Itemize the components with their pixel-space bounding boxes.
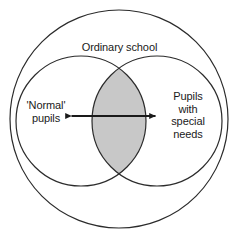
left-set-label-line-2: pupils xyxy=(11,112,81,125)
left-set-label: 'Normal' pupils xyxy=(11,99,81,124)
left-set-label-line-1: 'Normal' xyxy=(11,99,81,112)
outer-set-label: Ordinary school xyxy=(0,41,239,54)
right-set-label-line-1: Pupils xyxy=(155,90,221,103)
right-set-label-line-3: special xyxy=(155,115,221,128)
outer-set-label-line: Ordinary school xyxy=(0,41,239,54)
right-set-label: Pupils with special needs xyxy=(155,90,221,140)
venn-diagram: Ordinary school 'Normal' pupils Pupils w… xyxy=(0,0,239,239)
right-set-label-line-4: needs xyxy=(155,128,221,141)
right-set-label-line-2: with xyxy=(155,103,221,116)
